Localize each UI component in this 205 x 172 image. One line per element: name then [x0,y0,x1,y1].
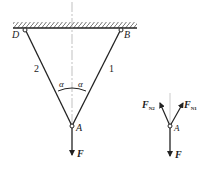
free-body-diagram: A FN2 FN1 F [141,93,197,160]
label-F: F [76,148,84,159]
pin-D [23,28,27,32]
label-alpha-left: α [59,79,64,89]
label-B: B [124,29,130,40]
label-bar-2: 2 [34,63,39,74]
pin-B [119,28,123,32]
pin-A [70,124,74,128]
label-A: A [75,122,83,133]
fbd-FN1: FN1 [183,99,197,111]
ceiling-support [13,22,137,28]
label-alpha-right: α [78,79,83,89]
fbd-label-A: A [173,123,180,133]
bar-2 [25,29,72,126]
bar-1 [72,29,121,126]
truss-diagram: D B A 2 1 α α F A FN2 FN1 F [0,0,205,172]
fbd-F: F [174,149,182,160]
label-D: D [11,29,20,40]
label-bar-1: 1 [109,63,114,74]
fbd-FN2: FN2 [141,99,155,111]
